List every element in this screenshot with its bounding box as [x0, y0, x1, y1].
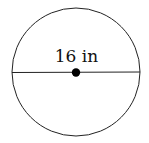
diameter-label: 16 in: [0, 46, 149, 66]
center-dot: [72, 68, 80, 76]
circle-diagram: [0, 0, 149, 143]
